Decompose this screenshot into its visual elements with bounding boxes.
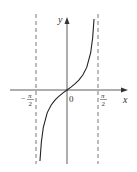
x-axis-arrow-icon [121,88,128,93]
neg-sign: − [21,94,26,103]
y-axis-label: y [57,14,63,25]
origin-label: 0 [69,94,74,104]
neg-pi-numerator: π [28,92,32,100]
tangent-graph: y x 0 − π 2 π 2 [0,0,137,172]
neg-pi-denominator: 2 [29,100,33,108]
y-axis-arrow-icon [65,17,70,24]
pos-pi-denominator: 2 [102,100,106,108]
x-axis-label: x [122,94,128,105]
pos-pi-numerator: π [101,92,105,100]
